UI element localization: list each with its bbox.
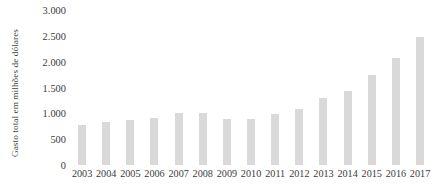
- x-tick-slot: 2016: [384, 168, 408, 186]
- x-tick-slot: 2017: [408, 168, 432, 186]
- x-tick-label: 2008: [193, 168, 213, 179]
- x-tick-slot: 2009: [215, 168, 239, 186]
- x-tick-label: 2012: [289, 168, 309, 179]
- bar-slot: [167, 10, 191, 165]
- x-tick-slot: 2010: [239, 168, 263, 186]
- bar-slot: [263, 10, 287, 165]
- x-axis-tick-labels: 2003200420052006200720082009201020112012…: [70, 168, 432, 186]
- x-tick-label: 2013: [313, 168, 333, 179]
- x-tick-slot: 2011: [263, 168, 287, 186]
- x-tick-label: 2016: [386, 168, 406, 179]
- y-axis-tick-labels: 05001.0001.5002.0002.5003.000: [24, 0, 66, 189]
- y-tick-label: 1.000: [24, 108, 66, 119]
- x-tick-label: 2003: [72, 168, 92, 179]
- x-tick-label: 2006: [144, 168, 164, 179]
- x-tick-label: 2005: [120, 168, 140, 179]
- bar-slot: [336, 10, 360, 165]
- y-tick-label: 500: [24, 134, 66, 145]
- x-tick-slot: 2005: [118, 168, 142, 186]
- x-tick-label: 2011: [265, 168, 285, 179]
- x-tick-slot: 2015: [360, 168, 384, 186]
- x-tick-slot: 2006: [142, 168, 166, 186]
- bar-slot: [215, 10, 239, 165]
- bar: [126, 120, 134, 165]
- bar: [199, 113, 207, 165]
- bar: [319, 98, 327, 165]
- y-axis-title: Gasto total em milhões de dólares: [4, 8, 26, 178]
- x-tick-label: 2017: [410, 168, 430, 179]
- x-tick-label: 2015: [362, 168, 382, 179]
- bar-slot: [408, 10, 432, 165]
- bar-slot: [311, 10, 335, 165]
- x-tick-slot: 2007: [167, 168, 191, 186]
- x-tick-slot: 2012: [287, 168, 311, 186]
- x-tick-label: 2010: [241, 168, 261, 179]
- y-tick-label: 0: [24, 160, 66, 171]
- bar: [175, 113, 183, 165]
- y-tick-label: 3.000: [24, 5, 66, 16]
- bar-slot: [384, 10, 408, 165]
- bar: [368, 75, 376, 165]
- bar-slot: [70, 10, 94, 165]
- bar-slot: [142, 10, 166, 165]
- bar: [416, 37, 424, 165]
- bar: [247, 119, 255, 166]
- bar-slot: [118, 10, 142, 165]
- x-tick-slot: 2003: [70, 168, 94, 186]
- bar-chart: Gasto total em milhões de dólares 05001.…: [0, 0, 441, 189]
- bar-slot: [360, 10, 384, 165]
- x-tick-slot: 2004: [94, 168, 118, 186]
- y-tick-label: 2.500: [24, 30, 66, 41]
- x-tick-label: 2014: [337, 168, 357, 179]
- bar: [344, 91, 352, 165]
- x-tick-label: 2004: [96, 168, 116, 179]
- bar-slot: [94, 10, 118, 165]
- bar: [102, 122, 110, 165]
- bar: [150, 118, 158, 165]
- bar-slot: [287, 10, 311, 165]
- bar: [271, 114, 279, 165]
- bar: [78, 125, 86, 165]
- y-tick-label: 1.500: [24, 82, 66, 93]
- bar: [392, 58, 400, 165]
- plot-area: [70, 10, 432, 165]
- bar: [295, 109, 303, 165]
- x-tick-slot: 2008: [191, 168, 215, 186]
- bar-slot: [191, 10, 215, 165]
- x-tick-slot: 2013: [311, 168, 335, 186]
- bars-layer: [70, 10, 432, 165]
- x-tick-label: 2009: [217, 168, 237, 179]
- y-tick-label: 2.000: [24, 56, 66, 67]
- bar: [223, 119, 231, 165]
- x-tick-slot: 2014: [336, 168, 360, 186]
- bar-slot: [239, 10, 263, 165]
- x-tick-label: 2007: [168, 168, 188, 179]
